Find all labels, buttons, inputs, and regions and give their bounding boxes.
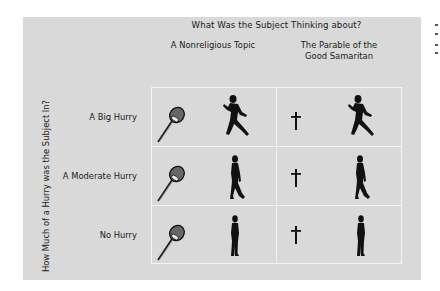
cropped-text-fragment <box>435 44 438 46</box>
cropped-text-fragment <box>435 24 438 26</box>
column-header-label: A Nonreligious Topic <box>171 40 255 50</box>
cross-icon <box>291 226 301 244</box>
y-axis-title: How Much of a Hurry was the Subject In? <box>41 100 51 272</box>
row-label-big-hurry: A Big Hurry <box>89 112 137 122</box>
standing-person-icon <box>229 215 241 257</box>
cross-icon <box>291 112 301 130</box>
walking-person-icon <box>353 155 371 201</box>
column-header-line1: The Parable of the <box>276 40 402 51</box>
figure-title: What Was the Subject Thinking about? <box>148 20 405 30</box>
running-person-icon <box>220 94 252 138</box>
cross-icon <box>291 169 301 187</box>
cropped-text-fragment <box>435 52 438 54</box>
row-label-moderate-hurry: A Moderate Hurry <box>63 171 137 181</box>
running-person-icon <box>345 94 377 138</box>
column-divider <box>276 88 277 263</box>
column-header-nonreligious: A Nonreligious Topic <box>150 40 276 51</box>
column-header-good-samaritan: The Parable of the Good Samaritan <box>276 40 402 62</box>
microphone-icon <box>155 104 189 144</box>
row-label-no-hurry: No Hurry <box>100 230 137 240</box>
column-header-line2: Good Samaritan <box>276 51 402 62</box>
walking-person-icon <box>228 155 246 201</box>
standing-person-icon <box>355 215 367 257</box>
microphone-icon <box>155 163 189 203</box>
cropped-text-fragment <box>435 33 438 35</box>
microphone-icon <box>155 222 189 262</box>
